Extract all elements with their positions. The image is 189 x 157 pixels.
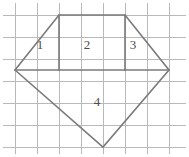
grid-polygon-figure bbox=[0, 0, 189, 157]
region-label-1: 1 bbox=[33, 38, 47, 51]
region-label-3: 3 bbox=[126, 38, 140, 51]
region-label-2: 2 bbox=[80, 38, 94, 51]
grid-lines bbox=[3, 3, 186, 154]
region-label-4: 4 bbox=[90, 95, 104, 108]
figure-container: 1234 bbox=[0, 0, 189, 157]
